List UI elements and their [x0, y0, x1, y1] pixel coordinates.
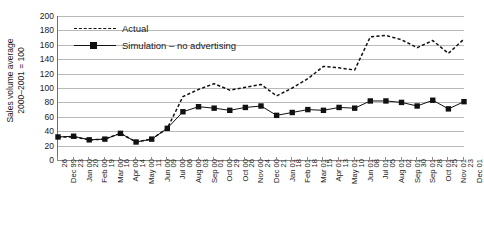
x-axis-tick-mark	[276, 157, 277, 161]
y-axis-tick-40: 40	[28, 127, 54, 136]
data-point-marker	[414, 103, 419, 108]
x-axis-tick-label: 13May 01	[342, 159, 359, 223]
y-axis-tick-80: 80	[28, 98, 54, 107]
x-axis-tick-mark	[182, 157, 183, 161]
x-axis-tick-labels: 26Dec 9923Jan 0020Feb 0019Mar 0016Apr 00…	[57, 161, 463, 225]
data-point-marker	[305, 107, 310, 112]
x-axis-tick-label: 09Jul 00	[170, 159, 187, 223]
x-axis-tick-label: 20Feb 00	[92, 159, 109, 223]
x-axis-tick-label: 01Oct 00	[217, 159, 234, 223]
x-axis-tick-mark	[463, 157, 464, 161]
data-point-marker	[461, 99, 466, 104]
dashed-line-key	[72, 23, 118, 34]
data-point-marker	[118, 131, 123, 136]
x-axis-tick-mark	[151, 157, 152, 161]
x-axis-tick-mark	[57, 157, 58, 161]
x-axis-tick-mark	[447, 157, 448, 161]
x-axis-tick-label: 23Dec 01	[467, 159, 484, 223]
data-point-marker	[383, 98, 388, 103]
x-axis-tick-mark	[213, 157, 214, 161]
data-point-marker	[290, 110, 295, 115]
x-axis-tick-mark	[260, 157, 261, 161]
x-axis-tick-mark	[385, 157, 386, 161]
data-point-marker	[258, 103, 263, 108]
x-axis-tick-mark	[322, 157, 323, 161]
x-axis-tick-mark	[432, 157, 433, 161]
data-point-marker	[430, 98, 435, 103]
data-point-marker	[102, 136, 107, 141]
data-point-marker	[149, 136, 154, 141]
data-point-marker	[352, 105, 357, 110]
x-axis-tick-label: 24Dec 00	[264, 159, 281, 223]
x-axis-tick-mark	[229, 157, 230, 161]
x-axis-tick-mark	[166, 157, 167, 161]
square-marker-line-key	[72, 40, 118, 51]
data-point-marker	[243, 105, 248, 110]
data-point-marker	[368, 98, 373, 103]
x-axis-tick-label: 14May 00	[139, 159, 156, 223]
y-axis-tick-labels: 200180160140120100806040200	[28, 11, 54, 163]
legend-entry-actual: Actual	[72, 20, 332, 37]
y-axis-tick-100: 100	[28, 84, 54, 93]
y-axis-tick-20: 20	[28, 141, 54, 150]
x-axis-tick-label: 18Feb 01	[295, 159, 312, 223]
data-point-marker	[336, 105, 341, 110]
data-point-marker	[180, 109, 185, 114]
x-axis-tick-mark	[73, 157, 74, 161]
x-axis-tick-label: 08Jul 01	[373, 159, 390, 223]
x-axis-tick-mark	[338, 157, 339, 161]
x-axis-tick-mark	[119, 157, 120, 161]
data-point-marker	[71, 134, 76, 139]
x-axis-tick-mark	[354, 157, 355, 161]
data-point-marker	[87, 137, 92, 142]
data-point-marker	[321, 108, 326, 113]
chart-legend: Actual Simulation – no advertising	[72, 20, 332, 54]
data-point-marker	[55, 134, 60, 139]
legend-entry-simulation: Simulation – no advertising	[72, 37, 332, 54]
y-axis-title: Sales volume average 2000–2001 = 100	[0, 0, 30, 160]
y-axis-tick-60: 60	[28, 113, 54, 122]
x-axis-tick-mark	[416, 157, 417, 161]
data-point-marker	[446, 106, 451, 111]
y-axis-tick-160: 160	[28, 41, 54, 50]
x-axis-tick-label: 06Aug 00	[186, 159, 203, 223]
data-point-marker	[196, 104, 201, 109]
y-axis-title-line-1: Sales volume average	[5, 38, 15, 122]
y-axis-tick-140: 140	[28, 55, 54, 64]
x-axis-tick-label: 26Nov 00	[248, 159, 265, 223]
data-point-marker	[274, 113, 279, 118]
x-axis-tick-label: 30Sep 01	[420, 159, 437, 223]
x-axis-tick-mark	[104, 157, 105, 161]
x-axis-tick-mark	[291, 157, 292, 161]
data-point-marker	[399, 100, 404, 105]
x-axis-tick-mark	[135, 157, 136, 161]
y-axis-tick-120: 120	[28, 69, 54, 78]
x-axis-tick-mark	[198, 157, 199, 161]
x-axis-tick-mark	[401, 157, 402, 161]
x-axis-tick-mark	[307, 157, 308, 161]
data-point-marker	[133, 139, 138, 144]
y-axis-tick-180: 180	[28, 26, 54, 35]
x-axis-tick-mark	[244, 157, 245, 161]
legend-label-actual: Actual	[118, 23, 148, 34]
x-axis-tick-label: 05Aug 01	[389, 159, 406, 223]
y-axis-title-line-2: 2000–2001 = 100	[15, 38, 26, 122]
x-axis-tick-label: 25Nov 01	[451, 159, 468, 223]
x-axis-tick-mark	[369, 157, 370, 161]
data-point-marker	[227, 108, 232, 113]
data-point-marker	[165, 126, 170, 131]
x-axis-tick-mark	[88, 157, 89, 161]
y-axis-tick-200: 200	[28, 12, 54, 21]
data-point-marker	[211, 105, 216, 110]
y-axis-tick-0: 0	[28, 156, 54, 165]
x-axis-tick-label: 26Dec 99	[61, 159, 78, 223]
legend-label-simulation: Simulation – no advertising	[118, 40, 236, 51]
